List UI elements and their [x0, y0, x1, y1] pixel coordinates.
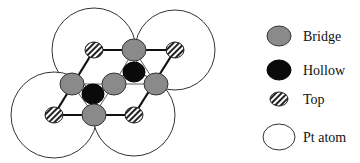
bridge-site-right: [144, 73, 168, 95]
legend-label-hollow: Hollow: [303, 63, 346, 78]
top-swatch-icon: [270, 92, 288, 106]
bridge-site-bottom: [82, 104, 106, 126]
bridge-site-left: [60, 73, 84, 95]
adsorption-site-diagram: Bridge Hollow Top Pt atom: [0, 0, 360, 163]
legend-label-bridge: Bridge: [303, 29, 341, 44]
legend-item-bridge: Bridge: [267, 26, 341, 46]
bridge-swatch-icon: [267, 26, 291, 46]
bridge-site-center: [102, 73, 126, 95]
legend-item-hollow: Hollow: [267, 60, 346, 80]
top-site-top-right: [166, 42, 184, 58]
hollow-site-upper: [123, 62, 145, 82]
top-site-bottom-left: [45, 107, 63, 123]
hollow-site-lower: [82, 84, 104, 104]
pt-atom-swatch-icon: [263, 124, 295, 150]
legend-item-top: Top: [270, 92, 325, 107]
top-site-bottom-right: [125, 107, 143, 123]
legend-label-top: Top: [303, 92, 325, 107]
bridge-site-top: [122, 39, 146, 61]
legend: Bridge Hollow Top Pt atom: [263, 26, 346, 150]
top-site-top-left: [85, 42, 103, 58]
hollow-swatch-icon: [267, 60, 291, 80]
legend-item-pt-atom: Pt atom: [263, 124, 346, 150]
legend-label-pt-atom: Pt atom: [303, 130, 346, 145]
